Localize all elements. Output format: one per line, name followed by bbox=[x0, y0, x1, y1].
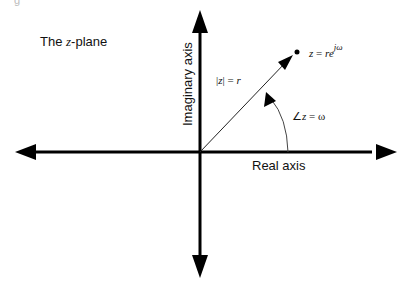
real-axis-label: Real axis bbox=[252, 158, 306, 173]
magnitude-label: |z| = r bbox=[216, 74, 241, 86]
real-axis-left-arrowhead-icon bbox=[15, 144, 36, 160]
z-plane-diagram: The z-plane Imaginary axis Real axis |z|… bbox=[0, 0, 407, 285]
angle-label: ∠z = ω bbox=[292, 110, 325, 122]
imaginary-axis-label: Imaginary axis bbox=[180, 42, 195, 126]
z-point bbox=[295, 50, 300, 55]
imaginary-axis-bottom-arrowhead-icon bbox=[192, 255, 208, 278]
title-prefix: The bbox=[40, 34, 66, 49]
z-vector bbox=[200, 50, 300, 153]
diagram-title: The z-plane bbox=[40, 34, 107, 49]
point-label: z = rejω bbox=[308, 42, 343, 59]
real-axis-right-arrowhead-icon bbox=[376, 144, 397, 160]
imaginary-axis-top-arrowhead-icon bbox=[192, 10, 208, 33]
angle-arc bbox=[264, 92, 288, 152]
title-suffix: -plane bbox=[71, 34, 107, 49]
angle-arc-arrowhead-icon bbox=[264, 92, 276, 107]
